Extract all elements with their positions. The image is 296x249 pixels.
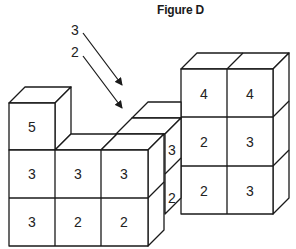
cube-label: 2 <box>120 214 128 230</box>
cube-label: 3 <box>28 214 36 230</box>
arrow-top-label: 3 <box>71 22 79 38</box>
cube-label: 3 <box>74 166 82 182</box>
cube-stack-figure: 3 2 5 3 3 3 3 2 2 3 2 4 4 2 3 2 3 <box>0 0 296 249</box>
cube-label: 3 <box>120 166 128 182</box>
middle-top-face-back <box>132 102 181 118</box>
right-block-side-face <box>273 53 289 214</box>
cube-label: 5 <box>28 119 36 135</box>
side-cube-label: 3 <box>168 142 176 158</box>
cube-label: 3 <box>246 134 254 150</box>
cube-label: 4 <box>200 86 208 102</box>
arrow-top <box>83 33 122 85</box>
side-cube-label: 2 <box>168 190 176 206</box>
arrow-bottom <box>83 56 122 108</box>
cube-label: 2 <box>74 214 82 230</box>
right-block <box>181 53 289 214</box>
cube-label: 3 <box>28 166 36 182</box>
arrow-bottom-label: 2 <box>71 44 79 60</box>
cube-label: 2 <box>200 134 208 150</box>
cube-label: 4 <box>246 86 254 102</box>
cube-label: 2 <box>200 183 208 199</box>
cube-label: 3 <box>246 183 254 199</box>
